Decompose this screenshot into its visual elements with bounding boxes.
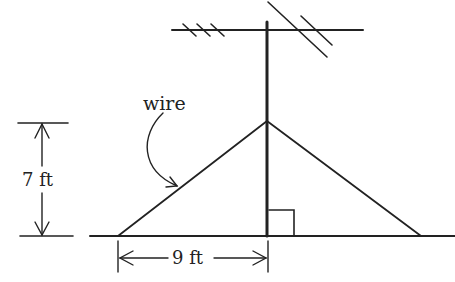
height-label: 7 ft — [22, 169, 54, 190]
right-angle-marker — [269, 210, 294, 236]
wire-left — [118, 121, 267, 236]
wire-label: wire — [143, 92, 186, 114]
wire-pointer-arrowhead-icon — [166, 177, 177, 187]
wire-pointer-arrow — [147, 113, 177, 186]
antenna-wire-diagram: wire 7 ft 9 ft — [0, 0, 455, 282]
wire-right — [267, 121, 421, 236]
base-label: 9 ft — [172, 247, 204, 268]
